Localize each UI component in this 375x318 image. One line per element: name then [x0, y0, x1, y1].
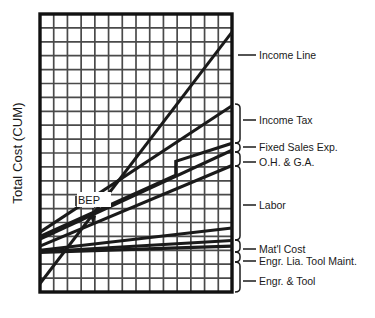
series-legend-labels: Income LineIncome TaxFixed Sales Exp.O.H… — [259, 49, 357, 287]
series-bracket — [235, 152, 240, 166]
bep-label: BEP — [78, 194, 100, 206]
series-label: O.H. & G.A. — [259, 156, 314, 168]
series-bracket — [235, 262, 240, 292]
series-label: Engr. & Tool — [259, 275, 315, 287]
chart-canvas: Total Cost (CUM) BEP Income LineIncome T… — [0, 0, 375, 318]
y-axis-title-group: Total Cost (CUM) — [10, 102, 25, 203]
series-brackets-group — [235, 55, 256, 292]
series-bracket — [235, 104, 240, 143]
series-label: Income Line — [259, 49, 316, 61]
series-label: Labor — [259, 199, 286, 211]
series-label: Income Tax — [259, 114, 313, 126]
series-bracket — [235, 143, 240, 152]
break-even-chart: Total Cost (CUM) BEP Income LineIncome T… — [0, 0, 375, 318]
series-label: Mat'l Cost — [259, 243, 305, 255]
series-label: Engr. Lia. Tool Maint. — [259, 255, 357, 267]
series-label: Fixed Sales Exp. — [259, 141, 338, 153]
y-axis-title: Total Cost (CUM) — [10, 102, 25, 203]
series-bracket — [235, 240, 240, 252]
series-bracket — [235, 252, 240, 262]
series-bracket — [235, 166, 240, 240]
